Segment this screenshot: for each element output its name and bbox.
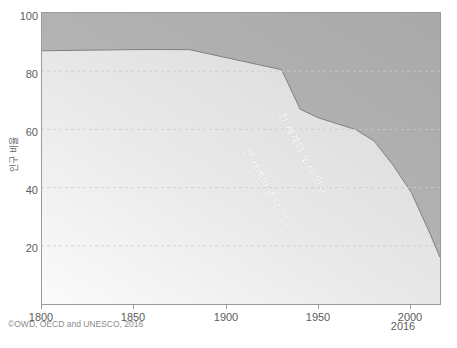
x-tick-1900: 1900: [214, 311, 238, 323]
x-end-label-2016: 2016: [391, 320, 415, 332]
x-axis-ticks: 1800 1850 1900 1950 2000: [0, 0, 457, 348]
area-chart: 인구 비율 100 80 60 40 20: [0, 0, 457, 348]
source-credit: ©OWD, OECD and UNESCO, 2016: [8, 319, 143, 329]
x-tick-1950: 1950: [306, 311, 330, 323]
